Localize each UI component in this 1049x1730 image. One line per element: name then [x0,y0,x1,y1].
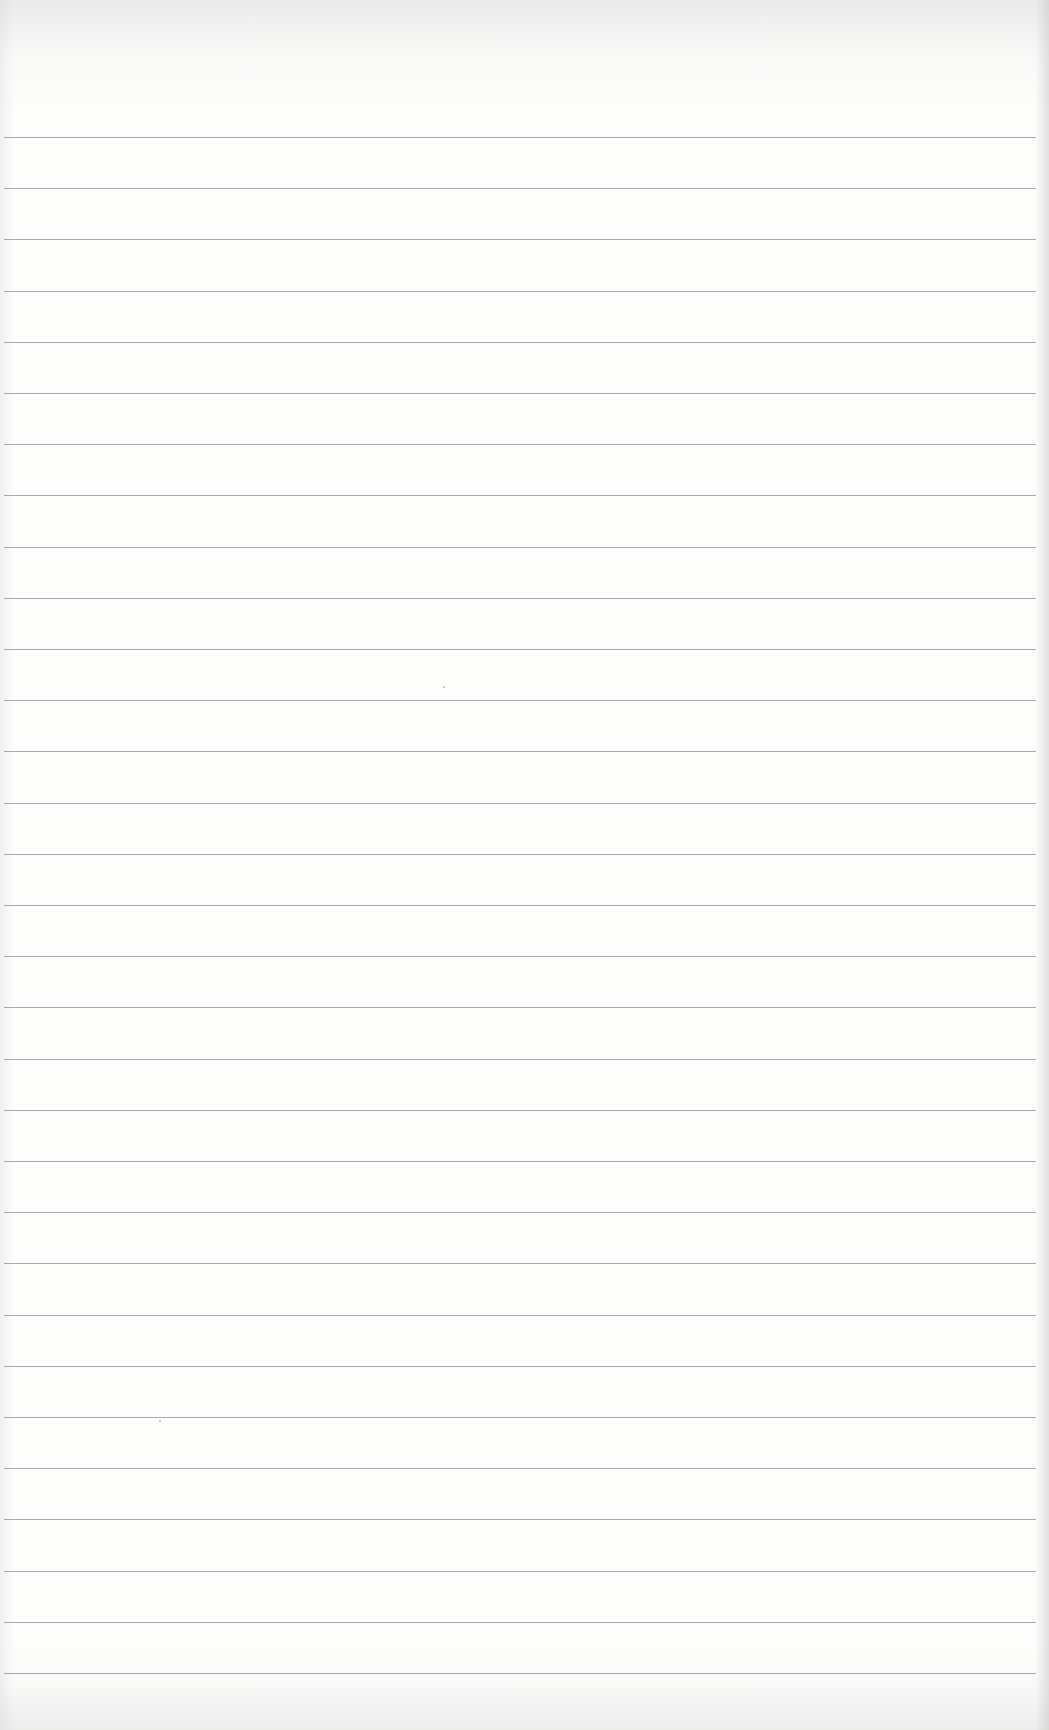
rule-line [4,1468,1036,1469]
rule-line [4,1212,1036,1213]
rule-line [4,239,1036,240]
rule-line [4,1059,1036,1060]
rule-line [4,598,1036,599]
rule-line [4,1366,1036,1367]
rule-line [4,444,1036,445]
page-edge-shadow [1035,0,1049,1730]
rule-line [4,342,1036,343]
paper-speck [159,1420,161,1422]
rule-line [4,751,1036,752]
rule-line [4,956,1036,957]
rule-line [4,393,1036,394]
rule-line [4,1622,1036,1623]
ruled-paper-sheet [0,0,1049,1730]
rule-line [4,1673,1036,1674]
rule-line [4,854,1036,855]
rule-line [4,1571,1036,1572]
rule-line [4,1110,1036,1111]
rule-line [4,649,1036,650]
rule-line [4,188,1036,189]
rule-line [4,1161,1036,1162]
rule-line [4,1519,1036,1520]
paper-speck [443,686,445,688]
rule-line [4,1315,1036,1316]
rule-line [4,803,1036,804]
rule-line [4,905,1036,906]
rule-line [4,495,1036,496]
rule-line [4,1007,1036,1008]
rule-line [4,291,1036,292]
rule-line [4,547,1036,548]
rule-line [4,1417,1036,1418]
rule-line [4,137,1036,138]
rule-line [4,1263,1036,1264]
rule-line [4,700,1036,701]
